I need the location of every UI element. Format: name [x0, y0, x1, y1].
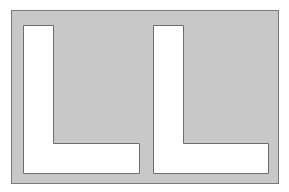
- letter-l-right-shape: [0, 0, 289, 192]
- letter-l-right: [0, 0, 289, 192]
